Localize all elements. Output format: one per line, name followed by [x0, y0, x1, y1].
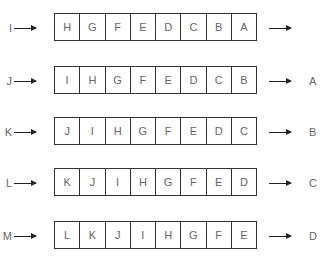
register-cell: H — [156, 222, 181, 248]
register-cell: D — [181, 67, 206, 93]
register-cell: F — [106, 14, 131, 40]
input-label: K — [0, 126, 12, 138]
output-arrow-icon — [269, 81, 291, 82]
register: J I H G F E D C — [54, 117, 257, 145]
input-arrow-icon — [14, 81, 36, 82]
register-row-3: K J I H G F E D C B — [0, 117, 327, 147]
register-cell: E — [207, 169, 232, 195]
register-cell: G — [80, 14, 105, 40]
register-cell: E — [131, 14, 156, 40]
register-cell: G — [131, 118, 156, 144]
register-cell: F — [181, 169, 206, 195]
register-cell: K — [80, 222, 105, 248]
register-cell: B — [207, 14, 232, 40]
output-label: C — [309, 177, 317, 189]
output-arrow-icon — [269, 183, 291, 184]
register-row-1: I H G F E D C B A — [0, 13, 327, 43]
register: I H G F E D C B — [54, 66, 257, 94]
register-cell: I — [55, 67, 80, 93]
register-cell: D — [156, 14, 181, 40]
output-arrow-icon — [269, 132, 291, 133]
register-cell: F — [131, 67, 156, 93]
output-label: B — [309, 126, 316, 138]
register-cell: D — [232, 169, 256, 195]
input-arrow-icon — [14, 28, 36, 29]
register-cell: G — [106, 67, 131, 93]
register-cell: H — [106, 118, 131, 144]
register-cell: E — [156, 67, 181, 93]
register-cell: E — [181, 118, 206, 144]
register-cell: G — [156, 169, 181, 195]
register-row-5: M L K J I H G F E D — [0, 221, 327, 251]
input-label: J — [0, 75, 12, 87]
register-cell: J — [80, 169, 105, 195]
register-cell: I — [106, 169, 131, 195]
output-arrow-icon — [269, 28, 291, 29]
register-cell: F — [207, 222, 232, 248]
input-arrow-icon — [14, 132, 36, 133]
register-cell: E — [232, 222, 256, 248]
register-cell: A — [232, 14, 256, 40]
output-label: A — [309, 75, 316, 87]
register-row-4: L K J I H G F E D C — [0, 168, 327, 198]
register: K J I H G F E D — [54, 168, 257, 196]
register-cell: I — [131, 222, 156, 248]
input-label: L — [0, 177, 12, 189]
input-arrow-icon — [14, 183, 36, 184]
register-row-2: J I H G F E D C B A — [0, 66, 327, 96]
register-cell: D — [207, 118, 232, 144]
register-cell: C — [181, 14, 206, 40]
register-cell: B — [232, 67, 256, 93]
register-cell: C — [232, 118, 256, 144]
register-cell: H — [131, 169, 156, 195]
input-label: I — [0, 22, 12, 34]
register: H G F E D C B A — [54, 13, 257, 41]
register-cell: J — [55, 118, 80, 144]
register-cell: K — [55, 169, 80, 195]
output-label: D — [309, 230, 317, 242]
register: L K J I H G F E — [54, 221, 257, 249]
register-cell: I — [80, 118, 105, 144]
register-cell: G — [181, 222, 206, 248]
register-cell: L — [55, 222, 80, 248]
register-cell: F — [156, 118, 181, 144]
register-cell: H — [80, 67, 105, 93]
input-arrow-icon — [14, 236, 36, 237]
register-cell: J — [106, 222, 131, 248]
output-arrow-icon — [269, 236, 291, 237]
input-label: M — [0, 230, 12, 242]
register-cell: C — [207, 67, 232, 93]
register-cell: H — [55, 14, 80, 40]
